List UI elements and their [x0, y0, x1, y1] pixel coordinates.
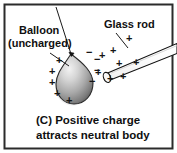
caption-line2: attracts neutral body [36, 129, 150, 141]
plus-sign: + [66, 94, 72, 106]
plus-sign: + [126, 32, 132, 44]
figure-container: − − − − + + + + + + + + + + + + + Balloo… [0, 0, 177, 153]
plus-sign: + [116, 57, 122, 69]
plus-sign: + [56, 54, 62, 66]
balloon-label-line1: Balloon [19, 24, 60, 36]
caption-line1: (C) Positive charge [36, 114, 140, 126]
plus-sign: + [99, 49, 105, 61]
plus-sign: + [110, 44, 116, 56]
plus-sign: + [107, 72, 113, 84]
glass-rod-label: Glass rod [104, 18, 155, 30]
balloon-label-line2: (uncharged) [8, 37, 72, 49]
plus-sign: + [120, 70, 126, 82]
plus-sign: + [54, 87, 60, 99]
plus-sign: + [95, 66, 101, 78]
minus-sign: − [86, 46, 92, 58]
electrostatic-induction-diagram: − − − − + + + + + + + + + + + + + Balloo… [0, 0, 177, 153]
plus-sign: + [133, 56, 139, 68]
